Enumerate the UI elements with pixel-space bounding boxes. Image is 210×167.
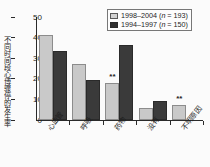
bar: [39, 35, 53, 120]
bar-group: **: [103, 17, 136, 120]
significance-marker: **: [173, 95, 185, 103]
significance-marker: **: [106, 73, 118, 81]
bar: **: [172, 105, 186, 120]
bar: **: [105, 83, 119, 120]
x-tick-mark: [103, 121, 104, 125]
y-tick-mark-10: [11, 99, 15, 100]
legend-label: 1994–1997 (n = 150): [121, 21, 188, 29]
y-tick-mark-50: [11, 17, 15, 18]
x-tick-mark: [203, 121, 204, 125]
legend-swatch-light: [110, 13, 118, 19]
bar: [119, 45, 133, 120]
y-tick-mark-30: [11, 58, 15, 59]
bar-group: [136, 17, 169, 120]
bar-group: [36, 17, 69, 120]
legend-swatch-dark: [110, 22, 118, 28]
x-tick-mark: [69, 121, 70, 125]
bar: [72, 64, 86, 120]
legend: 1998–2004 (n = 193)1994–1997 (n = 150): [107, 9, 192, 31]
y-tick-mark-0: [11, 120, 15, 121]
bar: [53, 51, 67, 120]
legend-item: 1998–2004 (n = 193): [110, 12, 188, 20]
y-tick-mark-40: [11, 37, 15, 38]
x-tick-mark: [170, 121, 171, 125]
legend-item: 1994–1997 (n = 150): [110, 21, 188, 29]
x-tick-mark: [136, 121, 137, 125]
y-tick-mark-20: [11, 78, 15, 79]
bar-group: [69, 17, 102, 120]
plot-area: 01020304050 ****: [36, 17, 203, 121]
legend-label: 1998–2004 (n = 193): [121, 12, 188, 20]
bar-chart: 不同时间段心博骤停的发生率 01020304050 **** 心血管呼吸药物没有…: [0, 0, 210, 167]
bar: [86, 80, 100, 120]
